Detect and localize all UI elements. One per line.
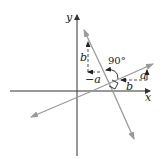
label-run-neg-a: −a [85, 73, 101, 86]
diagram-canvas: x y a b b −a 90° [0, 0, 164, 163]
rotation-arc [106, 70, 118, 79]
y-axis-label: y [65, 11, 73, 24]
angle-label: 90° [108, 55, 126, 66]
label-run-b: b [126, 80, 133, 93]
label-rise-b: b [80, 51, 87, 64]
slope-triangle-negative [88, 42, 100, 72]
x-axis-label: x [145, 91, 152, 104]
label-rise-a: a [140, 69, 147, 82]
